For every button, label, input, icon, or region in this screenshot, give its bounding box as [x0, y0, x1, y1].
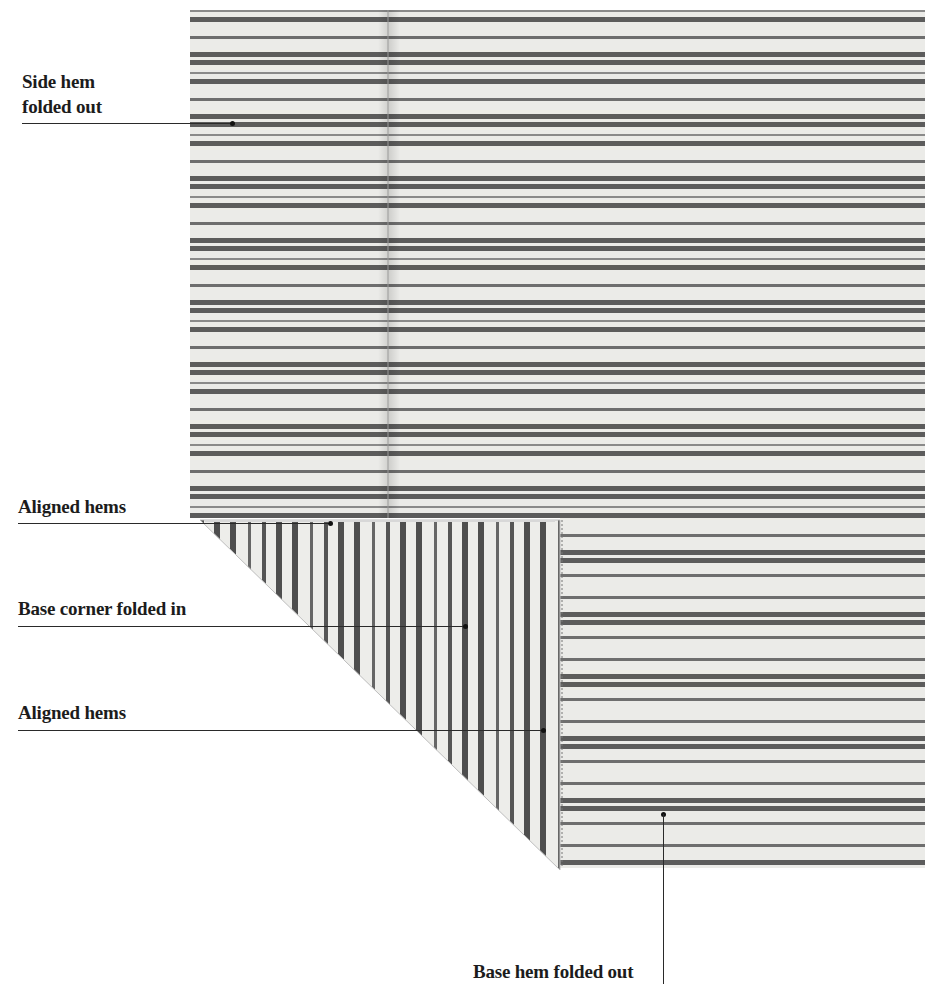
leader-line-side-hem: [22, 123, 232, 124]
label-base-corner: Base corner folded in: [18, 596, 186, 621]
label-aligned-hems-bottom: Aligned hems: [18, 700, 126, 725]
fabric-base-hem-panel: [560, 518, 925, 868]
diagram-stage: Side hem folded out Aligned hems Base co…: [0, 0, 949, 984]
fabric-upper-panel: [190, 10, 925, 518]
leader-dot-aligned-hems-top: [328, 521, 333, 526]
leader-dot-base-corner: [463, 624, 468, 629]
label-side-hem: Side hem folded out: [22, 69, 102, 119]
leader-line-base-hem: [663, 814, 664, 984]
fabric-illustration: [0, 0, 949, 984]
leader-dot-aligned-hems-bottom: [541, 728, 546, 733]
side-hem-crease: [378, 10, 400, 518]
leader-line-aligned-hems-top: [18, 523, 330, 524]
label-base-hem: Base hem folded out: [473, 959, 633, 984]
label-aligned-hems-top: Aligned hems: [18, 494, 126, 519]
leader-line-aligned-hems-bottom: [18, 730, 543, 731]
leader-dot-side-hem: [230, 121, 235, 126]
leader-line-base-corner: [18, 626, 465, 627]
